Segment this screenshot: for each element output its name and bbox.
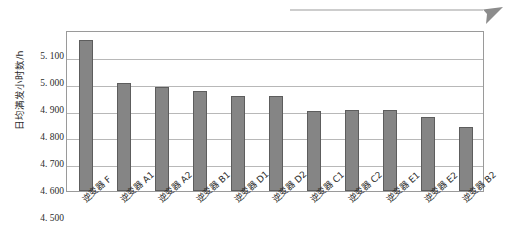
y-tick-label: 4. 500 xyxy=(28,213,64,223)
bar xyxy=(459,127,473,191)
y-axis-tick-labels: 5. 100 5. 000 4. 900 4. 800 4. 700 4. 60… xyxy=(28,25,64,200)
bar xyxy=(383,110,397,191)
arrow-rule-icon xyxy=(290,6,505,28)
y-tick-label: 4. 900 xyxy=(28,105,64,115)
y-tick-label: 4. 800 xyxy=(28,132,64,142)
y-tick-label: 5. 000 xyxy=(28,78,64,88)
chart-figure: 日均满发小时数/h 5. 100 5. 000 4. 900 4. 800 4.… xyxy=(0,0,505,251)
bar xyxy=(269,96,283,191)
bar xyxy=(117,83,131,191)
bar xyxy=(193,91,207,191)
bar xyxy=(79,40,93,191)
y-tick-label: 4. 700 xyxy=(28,159,64,169)
y-tick-label: 4. 600 xyxy=(28,186,64,196)
bars-layer xyxy=(67,32,483,191)
plot-area xyxy=(66,31,484,192)
bar xyxy=(421,117,435,191)
y-axis-title: 日均满发小时数/h xyxy=(12,30,26,150)
y-tick-label: 5. 100 xyxy=(28,51,64,61)
bar xyxy=(155,87,169,191)
bar xyxy=(231,96,245,191)
bar xyxy=(307,111,321,192)
bar xyxy=(345,110,359,191)
